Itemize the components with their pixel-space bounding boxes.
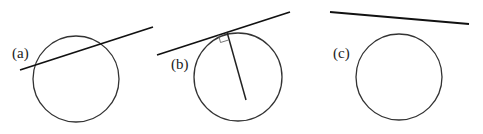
figure-c: (c) [330, 12, 469, 120]
circle-line-diagram: (a) (b) (c) [0, 0, 483, 134]
circle-b [194, 33, 282, 121]
separate-line-c [330, 12, 469, 24]
radius-b [227, 32, 246, 100]
label-a: (a) [12, 45, 29, 62]
figure-b: (b) [157, 12, 290, 121]
tangent-line-b [157, 12, 290, 55]
label-c: (c) [333, 45, 350, 62]
circle-c [356, 34, 442, 120]
label-b: (b) [171, 56, 189, 73]
circle-a [33, 36, 119, 122]
figure-a: (a) [12, 27, 153, 122]
secant-line-a [20, 27, 153, 70]
